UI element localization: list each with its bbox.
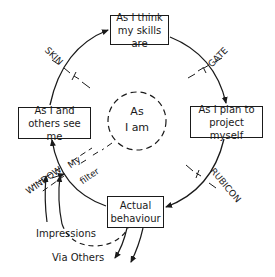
node-line: As I think bbox=[111, 11, 168, 24]
node-as-i-think-my-skills-are: As I think my skills are bbox=[110, 15, 169, 45]
node-as-i-am: As I am bbox=[112, 104, 162, 136]
node-as-i-plan-to-project-myself: As I plan to project myself bbox=[190, 106, 263, 138]
node-as-i-and-others-see-me: As I and others see me bbox=[18, 107, 91, 139]
node-line: others see me bbox=[19, 117, 90, 143]
via-others-arrows bbox=[115, 228, 143, 262]
node-line: As I plan to bbox=[191, 103, 262, 116]
arc-left-to-top bbox=[50, 30, 108, 105]
node-line: I am bbox=[112, 120, 162, 136]
arc-top-to-right bbox=[170, 37, 226, 103]
node-actual-behaviour: Actual behaviour bbox=[107, 196, 164, 228]
node-line: project myself bbox=[191, 116, 262, 142]
node-line: As bbox=[112, 104, 162, 120]
node-line: Actual bbox=[108, 199, 163, 212]
node-line: my skills are bbox=[111, 24, 168, 50]
node-line: behaviour bbox=[108, 212, 163, 225]
label-via-others: Via Others bbox=[52, 252, 104, 263]
node-line: As I and bbox=[19, 104, 90, 117]
label-impressions: Impressions bbox=[36, 228, 96, 239]
